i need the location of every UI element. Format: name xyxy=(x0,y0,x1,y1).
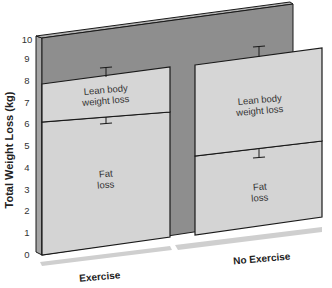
svg-text:10: 10 xyxy=(22,34,33,45)
bar-exercise: Lean body weight loss Fat loss xyxy=(42,67,170,255)
svg-text:loss: loss xyxy=(251,191,269,203)
svg-text:8: 8 xyxy=(24,75,29,86)
svg-text:7: 7 xyxy=(24,97,29,108)
y-axis-label: Total Weight Loss (kg) xyxy=(3,91,15,208)
bar-no-exercise: Lean body weight loss Fat loss xyxy=(195,46,322,235)
y-ticks: 0 1 2 3 4 5 6 7 8 9 10 xyxy=(22,34,33,260)
chart: Total Weight Loss (kg) 0 1 2 3 4 5 6 7 8… xyxy=(0,0,332,288)
svg-text:5: 5 xyxy=(24,140,29,151)
svg-text:4: 4 xyxy=(24,162,29,173)
category-label-exercise: Exercise xyxy=(79,269,121,284)
svg-text:0: 0 xyxy=(24,249,29,260)
category-label-no-exercise: No Exercise xyxy=(233,251,291,267)
svg-text:loss: loss xyxy=(97,178,115,190)
svg-text:9: 9 xyxy=(24,53,29,64)
svg-text:6: 6 xyxy=(24,118,29,129)
svg-text:2: 2 xyxy=(24,205,29,216)
svg-text:3: 3 xyxy=(24,184,29,195)
svg-text:1: 1 xyxy=(24,227,29,238)
